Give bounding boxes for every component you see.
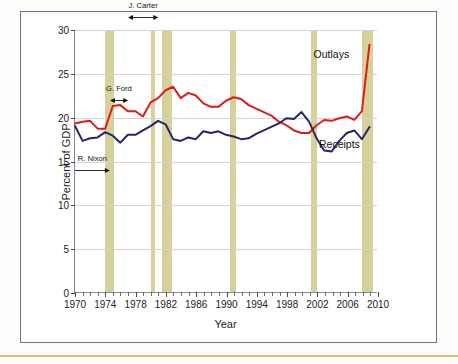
x-tick-major (196, 292, 197, 297)
x-tick-major (257, 292, 258, 297)
y-tick-label: 5 (63, 244, 69, 255)
term-arrow (128, 14, 158, 21)
x-tick-major (378, 292, 379, 297)
x-tick-minor (219, 292, 220, 296)
plot-wrapper: Percent of GDP 051015202530 197019741978… (21, 12, 438, 344)
x-tick-minor (204, 292, 205, 296)
x-tick-label: 1978 (124, 299, 146, 310)
y-tick-label: 15 (58, 156, 69, 167)
x-tick-minor (181, 292, 182, 296)
chart-page: Percent of GDP 051015202530 197019741978… (0, 0, 458, 364)
series-label-receipts: Receipts (319, 138, 360, 150)
x-tick-label: 1994 (246, 299, 268, 310)
x-tick-major (317, 292, 318, 297)
y-tick-label: 30 (58, 25, 69, 36)
x-tick-minor (355, 292, 356, 296)
x-tick-label: 1986 (185, 299, 207, 310)
x-tick-minor (234, 292, 235, 296)
x-tick-minor (264, 292, 265, 296)
x-tick-minor (143, 292, 144, 296)
x-tick-label: 1990 (215, 299, 237, 310)
x-tick-minor (98, 292, 99, 296)
president-term-label: J. Carter (129, 1, 158, 10)
x-tick-label: 1998 (276, 299, 298, 310)
x-tick-minor (280, 292, 281, 296)
x-tick-label: 2002 (306, 299, 328, 310)
y-tick-label: 25 (58, 68, 69, 79)
x-tick-major (75, 292, 76, 297)
x-tick-minor (189, 292, 190, 296)
series-label-outlays: Outlays (314, 48, 350, 60)
x-tick-minor (90, 292, 91, 296)
x-tick-major (105, 292, 106, 297)
x-tick-major (287, 292, 288, 297)
x-tick-label: 1982 (155, 299, 177, 310)
plot-area: 051015202530 197019741978198219861990199… (74, 30, 377, 293)
x-tick-minor (363, 292, 364, 296)
data-series-layer (75, 30, 377, 292)
x-axis-title: Year (74, 318, 377, 330)
figure-frame: Percent of GDP 051015202530 197019741978… (20, 11, 437, 343)
x-tick-minor (113, 292, 114, 296)
x-tick-minor (211, 292, 212, 296)
x-tick-minor (120, 292, 121, 296)
x-tick-label: 2010 (367, 299, 389, 310)
x-tick-label: 1970 (64, 299, 86, 310)
y-tick-label: 20 (58, 112, 69, 123)
x-tick-minor (242, 292, 243, 296)
president-term-jcarter: J. Carter (128, 3, 158, 19)
x-tick-major (166, 292, 167, 297)
x-tick-minor (128, 292, 129, 296)
x-tick-label: 1974 (94, 299, 116, 310)
y-tick-label: 10 (58, 200, 69, 211)
x-tick-minor (370, 292, 371, 296)
x-tick-minor (249, 292, 250, 296)
x-tick-minor (340, 292, 341, 296)
x-tick-minor (333, 292, 334, 296)
x-tick-minor (295, 292, 296, 296)
x-tick-label: 2006 (337, 299, 359, 310)
x-tick-minor (173, 292, 174, 296)
x-tick-minor (83, 292, 84, 296)
bottom-rule (0, 355, 458, 357)
x-tick-minor (325, 292, 326, 296)
x-tick-minor (158, 292, 159, 296)
y-tick-label: 0 (63, 288, 69, 299)
x-tick-minor (272, 292, 273, 296)
x-tick-minor (302, 292, 303, 296)
x-tick-major (136, 292, 137, 297)
x-tick-minor (310, 292, 311, 296)
x-tick-major (227, 292, 228, 297)
x-tick-major (348, 292, 349, 297)
x-tick-minor (151, 292, 152, 296)
